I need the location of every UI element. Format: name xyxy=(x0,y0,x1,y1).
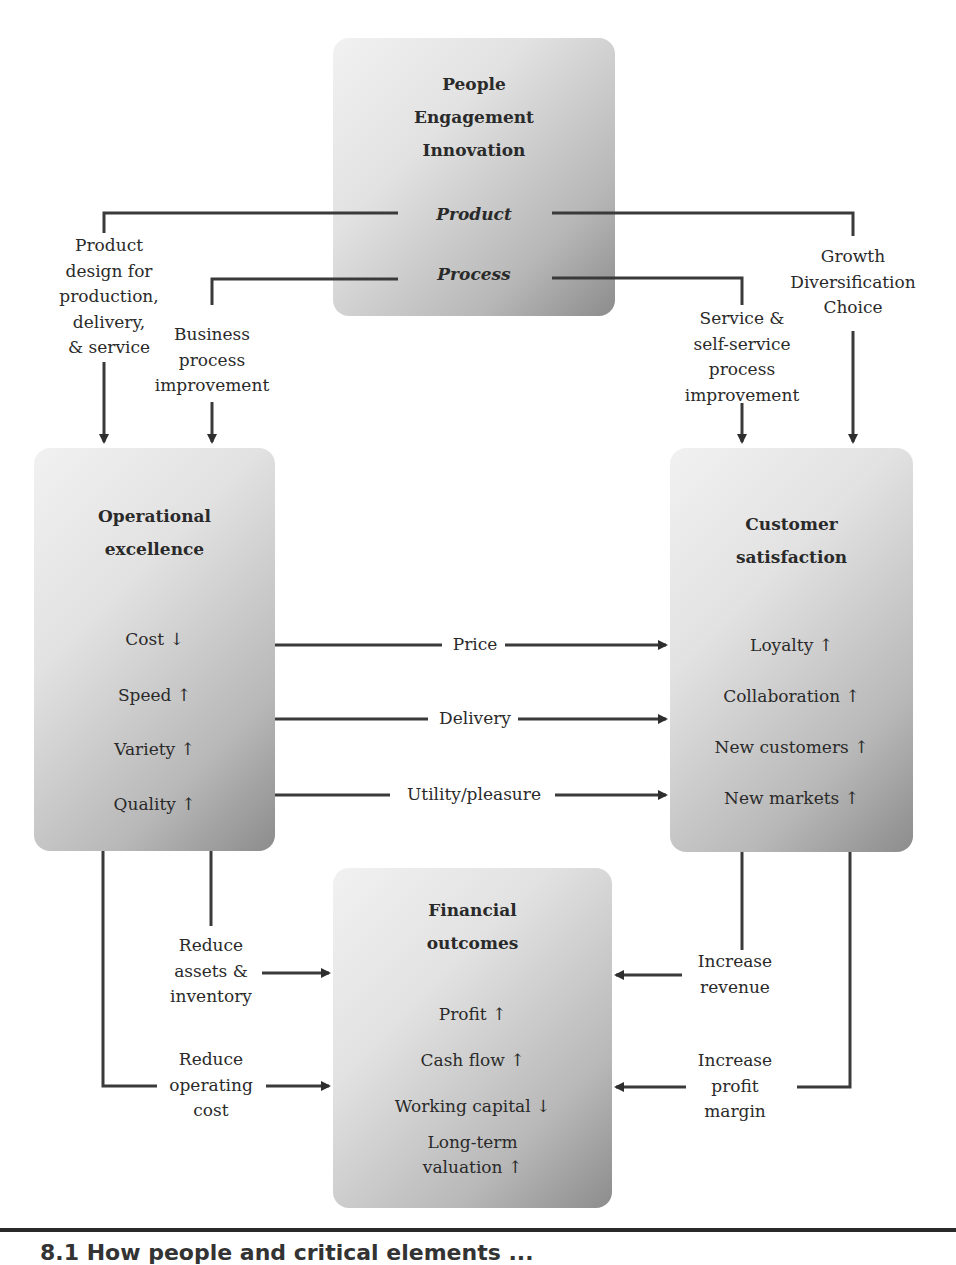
label-line: margin xyxy=(670,1099,800,1125)
label-business-process: Business process improvement xyxy=(142,322,282,399)
label-line: inventory xyxy=(146,984,276,1010)
label-line: Reduce xyxy=(146,1047,276,1073)
label-line: Growth xyxy=(783,244,923,270)
label-line: revenue xyxy=(670,975,800,1001)
label-reduce-assets: Reduce assets & inventory xyxy=(146,933,276,1010)
label-line: process xyxy=(142,348,282,374)
label-line: improvement xyxy=(142,373,282,399)
label-line: Business xyxy=(142,322,282,348)
label-line: design for xyxy=(44,259,174,285)
label-line: Increase xyxy=(670,1048,800,1074)
label-line: Choice xyxy=(783,295,923,321)
caption-rule xyxy=(0,1228,956,1232)
label-growth: Growth Diversification Choice xyxy=(783,244,923,321)
label-line: profit xyxy=(670,1074,800,1100)
label-line: assets & xyxy=(146,959,276,985)
label-price: Price xyxy=(425,632,525,658)
label-line: production, xyxy=(44,284,174,310)
label-line: Increase xyxy=(670,949,800,975)
label-delivery: Delivery xyxy=(425,706,525,732)
label-service-process: Service & self-service process improveme… xyxy=(672,306,812,408)
label-line: process xyxy=(672,357,812,383)
label-line: self-service xyxy=(672,332,812,358)
label-reduce-cost: Reduce operating cost xyxy=(146,1047,276,1124)
label-line: Diversification xyxy=(783,270,923,296)
label-line: cost xyxy=(146,1098,276,1124)
label-increase-revenue: Increase revenue xyxy=(670,949,800,1000)
label-increase-margin: Increase profit margin xyxy=(670,1048,800,1125)
label-utility: Utility/pleasure xyxy=(392,782,556,808)
label-line: Reduce xyxy=(146,933,276,959)
label-line: Product xyxy=(44,233,174,259)
figure-caption: 8.1 How people and critical elements ... xyxy=(40,1240,534,1265)
label-line: improvement xyxy=(672,383,812,409)
label-line: operating xyxy=(146,1073,276,1099)
